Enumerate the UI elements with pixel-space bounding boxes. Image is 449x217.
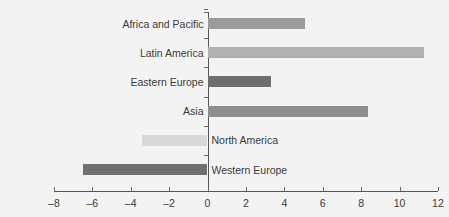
x-axis-tick bbox=[92, 187, 93, 191]
x-axis-tick-label: 12 bbox=[418, 197, 449, 209]
x-axis-tick bbox=[208, 187, 209, 191]
category-label: Eastern Europe bbox=[131, 77, 204, 88]
bar bbox=[208, 76, 271, 87]
x-axis-tick bbox=[400, 187, 401, 191]
x-axis-tick bbox=[361, 187, 362, 191]
y-axis-tick bbox=[204, 97, 208, 98]
x-axis-tick-label: 4 bbox=[264, 197, 304, 209]
x-axis-tick bbox=[131, 187, 132, 191]
zero-axis-line bbox=[208, 12, 209, 191]
x-axis-line bbox=[54, 191, 438, 192]
x-axis-tick-label: 0 bbox=[188, 197, 228, 209]
x-axis-tick bbox=[54, 187, 55, 191]
x-axis-tick bbox=[323, 187, 324, 191]
x-axis-tick-label: 10 bbox=[380, 197, 420, 209]
y-axis-tick bbox=[204, 38, 208, 39]
x-axis-tick-label: –4 bbox=[111, 197, 151, 209]
category-label: Asia bbox=[183, 106, 203, 117]
category-label: Latin America bbox=[140, 48, 204, 59]
x-axis-tick bbox=[284, 187, 285, 191]
horizontal-bar-chart: Africa and PacificLatin AmericaEastern E… bbox=[0, 0, 449, 217]
y-axis-tick bbox=[204, 126, 208, 127]
category-label: North America bbox=[212, 135, 279, 146]
x-axis-tick-label: 8 bbox=[341, 197, 381, 209]
bar bbox=[208, 18, 306, 29]
x-axis-tick-label: 2 bbox=[226, 197, 266, 209]
x-axis-tick-label: –8 bbox=[34, 197, 74, 209]
y-axis-tick bbox=[204, 67, 208, 68]
plot-area: Africa and PacificLatin AmericaEastern E… bbox=[0, 0, 449, 217]
x-axis-tick-label: –6 bbox=[72, 197, 112, 209]
category-label: Africa and Pacific bbox=[122, 19, 203, 30]
category-label: Western Europe bbox=[212, 165, 288, 176]
bar bbox=[142, 135, 207, 146]
bar bbox=[208, 47, 425, 58]
y-axis-tick bbox=[204, 9, 208, 10]
y-axis-tick bbox=[204, 12, 208, 13]
x-axis-tick bbox=[246, 187, 247, 191]
x-axis-tick-label: 6 bbox=[303, 197, 343, 209]
x-axis-tick-label: –2 bbox=[149, 197, 189, 209]
bar bbox=[83, 164, 208, 175]
bar bbox=[208, 106, 368, 117]
x-axis-tick bbox=[169, 187, 170, 191]
y-axis-tick bbox=[204, 155, 208, 156]
x-axis-tick bbox=[438, 187, 439, 191]
